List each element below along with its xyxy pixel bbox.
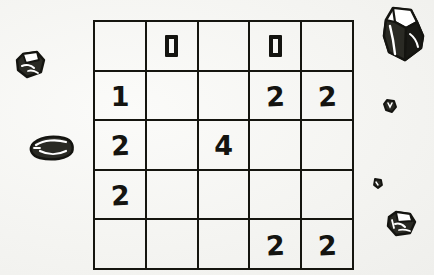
grid-cell-r1c4[interactable]	[249, 21, 301, 71]
cell-value: 2	[317, 82, 337, 110]
rock-left-flat-icon	[26, 133, 76, 163]
grid-row: 1 2 2	[94, 71, 353, 121]
grid-cell-r4c4[interactable]	[249, 170, 301, 220]
grid-row: 2 2	[94, 219, 353, 269]
grid-cell-r3c1[interactable]: 2	[94, 120, 146, 170]
grid-row	[94, 21, 353, 71]
grid-cell-r4c3[interactable]	[198, 170, 250, 220]
zero-block-icon	[165, 35, 178, 57]
grid-cell-r4c1[interactable]: 2	[94, 170, 146, 220]
cell-value: 2	[317, 231, 337, 259]
grid-cell-r2c1[interactable]: 1	[94, 71, 146, 121]
puzzle-scene: 1 2 2 2 4 2	[0, 0, 434, 275]
grid-cell-r5c4[interactable]: 2	[249, 219, 301, 269]
grid-cell-r1c5[interactable]	[301, 21, 353, 71]
grid-cell-r3c2[interactable]	[146, 120, 198, 170]
grid-row: 2 4	[94, 120, 353, 170]
grid-cell-r4c2[interactable]	[146, 170, 198, 220]
grid-cell-r4c5[interactable]	[301, 170, 353, 220]
grid-cell-r5c3[interactable]	[198, 219, 250, 269]
grid-cell-r3c4[interactable]	[249, 120, 301, 170]
zero-block-icon	[269, 35, 282, 57]
cell-value: 2	[265, 231, 285, 259]
rock-top-right-large-icon	[381, 6, 427, 66]
cell-value: 2	[110, 132, 130, 160]
puzzle-grid: 1 2 2 2 4 2	[93, 20, 354, 270]
rock-right-bottom-icon	[386, 210, 418, 238]
grid-cell-r1c2[interactable]	[146, 21, 198, 71]
cell-value: 2	[265, 82, 285, 110]
grid-cell-r3c3[interactable]: 4	[198, 120, 250, 170]
cell-value: 2	[110, 182, 130, 210]
grid-row: 2	[94, 170, 353, 220]
grid-cell-r2c2[interactable]	[146, 71, 198, 121]
grid-cell-r5c5[interactable]: 2	[301, 219, 353, 269]
grid-cell-r5c2[interactable]	[146, 219, 198, 269]
grid-cell-r2c3[interactable]	[198, 71, 250, 121]
cell-value: 1	[111, 83, 129, 110]
rock-right-pebble-mid-icon	[372, 177, 384, 190]
rock-left-small-icon	[15, 50, 47, 80]
grid-cell-r5c1[interactable]	[94, 219, 146, 269]
grid-cell-r3c5[interactable]	[301, 120, 353, 170]
grid-cell-r1c3[interactable]	[198, 21, 250, 71]
cell-value: 4	[214, 132, 232, 159]
grid-cell-r2c4[interactable]: 2	[249, 71, 301, 121]
puzzle-grid-container: 1 2 2 2 4 2	[93, 20, 342, 258]
grid-cell-r1c1[interactable]	[94, 21, 146, 71]
grid-cell-r2c5[interactable]: 2	[301, 71, 353, 121]
rock-right-pebble-top-icon	[383, 98, 398, 114]
